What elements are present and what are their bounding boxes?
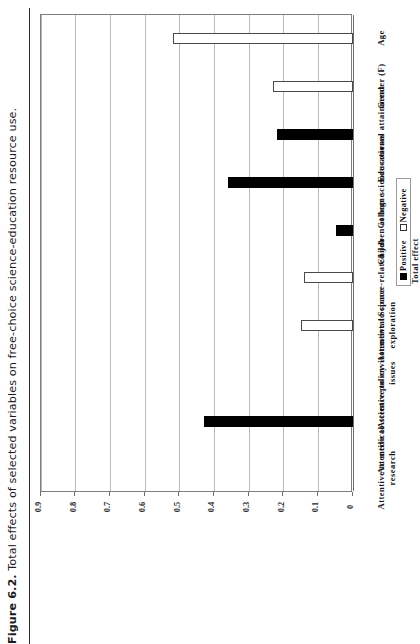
legend-swatch-negative (400, 224, 407, 231)
plot-area (40, 14, 352, 492)
bar-educational-attainment (277, 129, 353, 140)
figure-caption-text: Figure 6.2. Total effects of selected va… (0, 0, 26, 644)
value-tick-label: 0.1 (311, 492, 323, 522)
value-tick-label: 0.2 (277, 492, 289, 522)
bar-college-science-courses (228, 177, 353, 188)
legend-swatch-positive (400, 273, 407, 280)
bar-attentive-to-space-exploration (301, 320, 353, 331)
figure-caption-body: Total effects of selected variables on f… (6, 108, 19, 571)
bar-science-related-job (304, 272, 353, 283)
gridline-0-6 (145, 15, 146, 491)
value-tick-label: 0.5 (173, 492, 185, 522)
bar-gender-f- (273, 81, 353, 92)
legend-item-negative: Negative (399, 188, 408, 231)
value-tick-label: 0.9 (34, 492, 46, 522)
category-label-attentive-to-medical-research: Attentive to medicalresearch (376, 408, 397, 528)
legend-label: Negative (399, 188, 408, 222)
bar-age (173, 33, 353, 44)
gridline-0-7 (110, 15, 111, 491)
value-axis-title: Total effect (410, 238, 420, 284)
value-tick-label: 0.3 (242, 492, 254, 522)
value-tick-label: 0.8 (69, 492, 81, 522)
gridline-0-9 (41, 15, 42, 491)
chart: 00.10.20.30.40.50.60.70.80.9 AgeGender (… (34, 0, 413, 644)
legend-label: Positive (399, 240, 408, 271)
bar-children-at-home (336, 225, 353, 236)
bar-attentive-to-science-policy (204, 416, 353, 427)
legend-item-positive: Positive (399, 240, 408, 280)
value-tick-label: 0 (346, 492, 358, 522)
caption-divider (29, 8, 30, 644)
value-tick-label: 0.4 (207, 492, 219, 522)
gridline-0-8 (75, 15, 76, 491)
value-tick-label: 0.7 (103, 492, 115, 522)
figure-number: Figure 6.2. (6, 574, 19, 644)
figure-caption: Figure 6.2. Total effects of selected va… (0, 0, 30, 644)
value-tick-label: 0.6 (138, 492, 150, 522)
chart-legend: PositiveNegative (396, 178, 411, 286)
gridline-0-5 (179, 15, 180, 491)
